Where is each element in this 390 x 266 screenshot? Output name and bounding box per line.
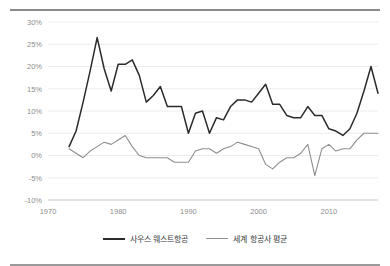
legend-item-world-average: 세계 항공사 평균 <box>206 233 286 244</box>
series-line-southwest <box>69 38 378 147</box>
y-axis-tick-label: 10% <box>27 107 42 116</box>
y-axis-tick-label: 15% <box>27 85 42 94</box>
chart-legend: 사우스 웨스트항공 세계 항공사 평균 <box>0 233 390 244</box>
x-axis-tick-label: 2000 <box>250 207 267 216</box>
x-axis-tick-label: 1980 <box>110 207 127 216</box>
legend-item-southwest: 사우스 웨스트항공 <box>103 233 188 244</box>
legend-label-world-average: 세계 항공사 평균 <box>233 233 286 244</box>
x-axis-tick-label: 1990 <box>180 207 197 216</box>
legend-label-southwest: 사우스 웨스트항공 <box>130 233 188 244</box>
y-axis-tick-label: 25% <box>27 40 42 49</box>
chart-plot-area: 30%25%20%15%10%5%0%-5%-10%19701980199020… <box>0 11 390 264</box>
line-chart: 30%25%20%15%10%5%0%-5%-10%19701980199020… <box>0 11 390 241</box>
y-axis-tick-label: -10% <box>24 196 42 205</box>
y-axis-tick-label: 30% <box>27 18 42 27</box>
x-axis-tick-label: 1970 <box>40 207 57 216</box>
x-axis-tick-label: 2010 <box>321 207 338 216</box>
y-axis-tick-label: -5% <box>29 174 43 183</box>
series-line-world-average <box>69 133 378 175</box>
legend-swatch-southwest <box>103 238 125 240</box>
y-axis-tick-label: 20% <box>27 62 42 71</box>
legend-swatch-world-average <box>206 238 228 239</box>
chart-card: 30%25%20%15%10%5%0%-5%-10%19701980199020… <box>0 0 390 266</box>
y-axis-tick-label: 0% <box>31 151 42 160</box>
y-axis-tick-label: 5% <box>31 129 42 138</box>
